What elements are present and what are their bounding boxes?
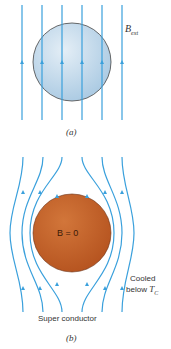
superconductor-label: Super conductor [38,314,97,323]
meissner-effect-diagram [0,0,171,349]
panel-a [20,5,124,120]
field-label-bext: Bext [125,23,138,36]
sphere-label-b0: B = 0 [57,228,78,238]
caption-b: (b) [66,333,77,343]
caption-a: (a) [66,127,77,137]
normal-sphere [33,23,111,101]
note-cooled: Cooled [130,274,155,283]
note-below-tc: below TC [126,284,158,296]
